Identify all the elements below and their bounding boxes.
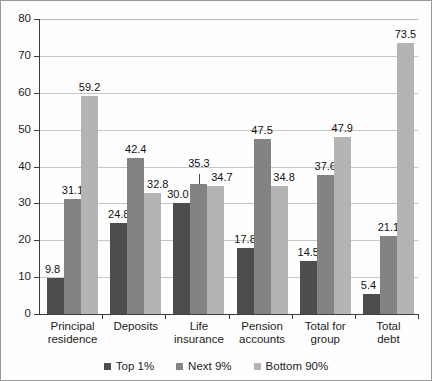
- bar: [81, 96, 98, 314]
- bar-value-label: 24.8: [108, 209, 129, 220]
- bar: [317, 175, 334, 314]
- x-tick: [165, 314, 166, 319]
- y-tick-label-60: 60: [18, 87, 31, 99]
- y-axis-line: [39, 19, 40, 315]
- x-tick: [355, 314, 356, 319]
- x-category-label: Life insurance: [174, 320, 224, 346]
- legend-swatch-icon: [254, 363, 261, 370]
- bar-value-label: 21.1: [378, 222, 399, 233]
- bar-value-label: 37.6: [315, 161, 336, 172]
- legend-item[interactable]: Top 1%: [104, 361, 154, 373]
- x-tick: [418, 314, 419, 319]
- x-tick: [292, 314, 293, 319]
- bar: [173, 203, 190, 314]
- legend-label: Bottom 90%: [266, 361, 329, 373]
- x-category-label: Deposits: [113, 320, 158, 333]
- y-tick-label-20: 20: [18, 235, 31, 247]
- bar: [144, 193, 161, 314]
- bar: [397, 43, 414, 314]
- bar: [237, 248, 254, 314]
- bar-value-label: 5.4: [361, 280, 376, 291]
- bar-group: 30.035.334.7: [173, 19, 224, 314]
- x-tick: [229, 314, 230, 319]
- bar-value-label: 32.8: [147, 179, 168, 190]
- y-tick-label-10: 10: [18, 271, 31, 283]
- legend-label: Next 9%: [188, 361, 231, 373]
- x-category-label: Total for group: [305, 320, 346, 346]
- bar: [207, 186, 224, 314]
- label-leader-line: [199, 174, 200, 184]
- legend-swatch-icon: [104, 363, 111, 370]
- y-tick-label-70: 70: [18, 50, 31, 62]
- plot-area: 01020304050607080 9.831.159.224.842.432.…: [39, 19, 418, 314]
- bar-value-label: 47.9: [332, 123, 353, 134]
- bar-group: 14.537.647.9: [300, 19, 351, 314]
- bar: [64, 199, 81, 314]
- bar-group: 9.831.159.2: [47, 19, 98, 314]
- bar-value-label: 14.5: [298, 247, 319, 258]
- bar-value-label: 9.8: [45, 264, 60, 275]
- y-tick-label-40: 40: [18, 161, 31, 173]
- bar: [271, 186, 288, 314]
- bar-value-label: 42.4: [125, 144, 146, 155]
- legend-swatch-icon: [176, 363, 183, 370]
- bar: [110, 223, 127, 314]
- bar-value-label: 59.2: [79, 82, 100, 93]
- x-tick: [102, 314, 103, 319]
- legend-item[interactable]: Next 9%: [176, 361, 231, 373]
- bar-group: 17.847.534.8: [237, 19, 288, 314]
- bar-chart-figure: 01020304050607080 9.831.159.224.842.432.…: [0, 0, 432, 381]
- y-tick-label-80: 80: [18, 13, 31, 25]
- bar: [190, 184, 207, 314]
- bar: [254, 139, 271, 314]
- bar: [363, 294, 380, 314]
- x-category-label: Total debt: [376, 320, 400, 346]
- bar-value-label: 73.5: [395, 29, 416, 40]
- bar-value-label: 30.0: [167, 189, 188, 200]
- bar-value-label: 31.1: [62, 185, 83, 196]
- x-category-label: Principal residence: [48, 320, 98, 346]
- bar: [334, 137, 351, 314]
- bar-value-label: 47.5: [251, 125, 272, 136]
- bar-value-label: 17.8: [234, 234, 255, 245]
- chart-legend: Top 1%Next 9%Bottom 90%: [1, 361, 431, 373]
- bar-value-label: 34.7: [211, 172, 232, 183]
- bar-group: 5.421.173.5: [363, 19, 414, 314]
- x-category-label: Pension accounts: [239, 320, 285, 346]
- bar: [300, 261, 317, 314]
- bar-value-label: 35.3: [188, 158, 209, 169]
- y-tick-label-0: 0: [25, 308, 31, 320]
- bar-group: 24.842.432.8: [110, 19, 161, 314]
- y-tick-label-50: 50: [18, 124, 31, 136]
- bar: [47, 278, 64, 314]
- bar: [127, 158, 144, 314]
- y-tick-label-30: 30: [18, 198, 31, 210]
- bar-value-label: 34.8: [273, 172, 294, 183]
- legend-label: Top 1%: [116, 361, 154, 373]
- bar: [380, 236, 397, 314]
- legend-item[interactable]: Bottom 90%: [254, 361, 329, 373]
